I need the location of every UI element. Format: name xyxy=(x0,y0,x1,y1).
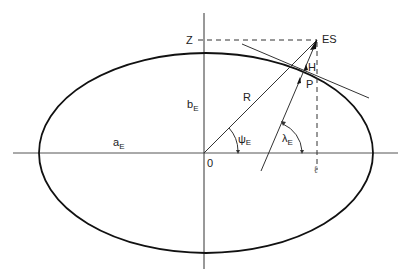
radius-line xyxy=(204,40,317,153)
label-z: Z xyxy=(186,34,193,46)
label-h: H xyxy=(308,61,316,73)
label-b: bE xyxy=(187,98,198,113)
label-lambda: λE xyxy=(282,132,293,147)
es-marker-icon xyxy=(310,39,317,50)
label-origin: 0 xyxy=(207,157,213,169)
label-p: P xyxy=(306,78,313,90)
ellipsoid-diagram: Z ES H P R bE aE 0 ψE λE ℓ xyxy=(0,0,406,279)
label-es: ES xyxy=(322,33,337,45)
label-psi: ψE xyxy=(238,133,251,147)
label-a: aE xyxy=(113,136,124,151)
label-r: R xyxy=(243,91,251,103)
psi-angle-arc xyxy=(229,128,238,151)
